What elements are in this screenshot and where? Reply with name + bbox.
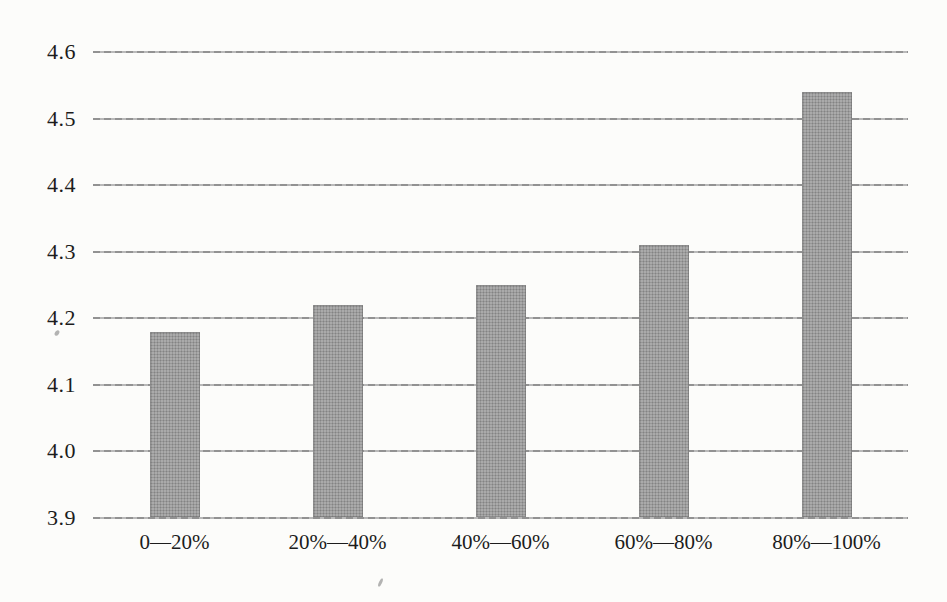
gridline-4.4 — [93, 184, 908, 186]
bar-chart-figure: 3.94.04.14.24.34.44.54.60—20%20%—40%40%—… — [0, 0, 947, 602]
scanned-chart-page: 3.94.04.14.24.34.44.54.60—20%20%—40%40%—… — [0, 0, 947, 602]
bar-2 — [313, 305, 363, 517]
y-tick-label: 4.3 — [14, 239, 76, 265]
x-tick-label: 0—20% — [93, 530, 256, 554]
x-tick-label: 20%—40% — [256, 530, 419, 554]
y-tick-label: 4.6 — [14, 39, 76, 65]
y-tick-label: 4.4 — [14, 172, 76, 198]
y-tick-label: 4.2 — [14, 305, 76, 331]
gridline-3.9 — [93, 517, 908, 519]
bar-3 — [476, 285, 526, 517]
y-tick-label: 4.0 — [14, 438, 76, 464]
gridline-4.5 — [93, 118, 908, 120]
y-tick-label: 4.5 — [14, 106, 76, 132]
bar-4 — [639, 245, 689, 517]
x-tick-label: 40%—60% — [419, 530, 582, 554]
gridline-4.6 — [93, 51, 908, 53]
x-tick-label: 60%—80% — [582, 530, 745, 554]
bar-5 — [802, 92, 852, 517]
gridline-4.3 — [93, 251, 908, 253]
y-tick-label: 3.9 — [14, 505, 76, 531]
x-tick-label: 80%—100% — [745, 530, 908, 554]
y-tick-label: 4.1 — [14, 372, 76, 398]
bar-1 — [150, 332, 200, 517]
